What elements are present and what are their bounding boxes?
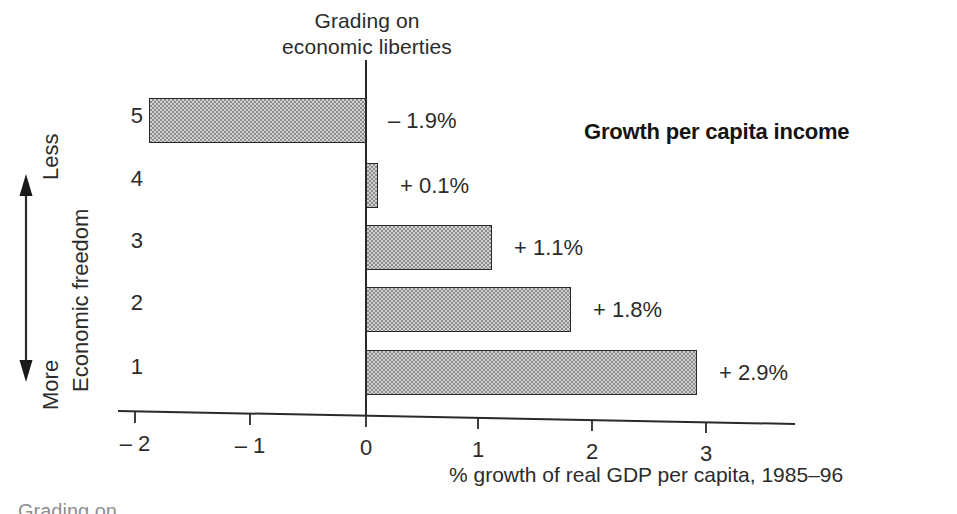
category-label-2: 2 [113,290,143,316]
bar-value-grade-4: + 0.1% [400,173,469,199]
x-tick-label-1: 1 [448,437,508,463]
bar-grade-1 [366,350,697,395]
bar-value-grade-2: + 1.8% [593,297,662,323]
bar-grade-2 [366,287,571,332]
clipped-footer-text: Grading on [18,500,117,514]
category-label-5: 5 [113,103,143,129]
bar-value-grade-5: – 1.9% [388,108,457,134]
plot-area: 5 4 3 2 1 – 1.9% + 0.1% + 1.1% + 1.8% + … [0,0,957,514]
x-tick-label-0: 0 [336,435,396,461]
category-label-1: 1 [113,354,143,380]
category-label-3: 3 [113,228,143,254]
x-tick-label-neg2: – 2 [105,431,165,457]
bar-grade-3 [366,225,492,270]
zero-reference-line [365,60,367,415]
bar-value-grade-1: + 2.9% [719,360,788,386]
bar-grade-4 [366,163,378,208]
chart-figure: Grading on economic liberties Less More … [0,0,957,514]
x-axis-title: % growth of real GDP per capita, 1985–96 [449,463,843,487]
x-tick-label-neg1: – 1 [220,433,280,459]
bar-value-grade-3: + 1.1% [514,235,583,261]
bar-grade-5 [149,98,366,143]
chart-title: Growth per capita income [584,119,849,145]
x-tick-label-2: 2 [562,439,622,465]
category-label-4: 4 [113,166,143,192]
